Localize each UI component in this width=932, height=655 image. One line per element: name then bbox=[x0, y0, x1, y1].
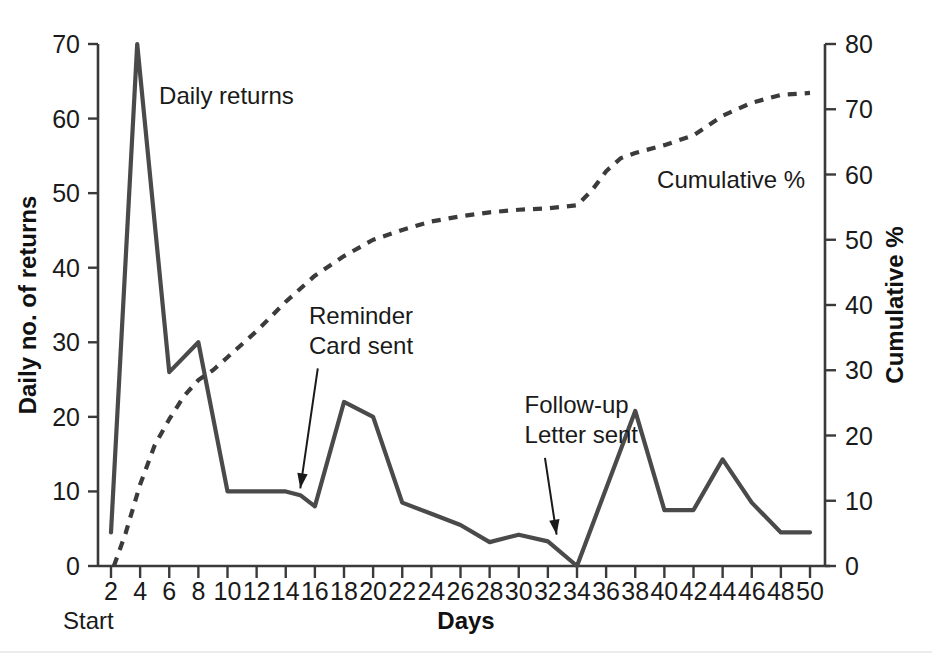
x-tick-label-12: 12 bbox=[243, 577, 271, 605]
left-tick-label-60: 60 bbox=[52, 105, 80, 133]
chart-background bbox=[0, 0, 932, 655]
left-axis-title: Daily no. of returns bbox=[14, 196, 41, 415]
x-tick-label-36: 36 bbox=[592, 577, 620, 605]
right-tick-label-80: 80 bbox=[845, 30, 873, 58]
start-label: Start bbox=[63, 607, 114, 634]
x-tick-label-22: 22 bbox=[388, 577, 416, 605]
follow-up-annotation-line2: Letter sent bbox=[525, 421, 639, 448]
x-tick-label-32: 32 bbox=[534, 577, 562, 605]
dual-axis-line-chart: 010203040506070 01020304050607080 246810… bbox=[0, 0, 932, 655]
follow-up-annotation-line1: Follow-up bbox=[525, 391, 629, 418]
x-tick-label-18: 18 bbox=[330, 577, 358, 605]
x-tick-label-10: 10 bbox=[214, 577, 242, 605]
reminder-card-annotation-line1: Reminder bbox=[309, 302, 413, 329]
daily-returns-annotation: Daily returns bbox=[159, 82, 294, 109]
x-tick-label-28: 28 bbox=[476, 577, 504, 605]
x-tick-label-6: 6 bbox=[162, 577, 176, 605]
left-tick-label-0: 0 bbox=[66, 552, 80, 580]
x-tick-label-26: 26 bbox=[447, 577, 475, 605]
x-tick-label-14: 14 bbox=[272, 577, 300, 605]
x-tick-label-40: 40 bbox=[650, 577, 678, 605]
left-tick-label-40: 40 bbox=[52, 254, 80, 282]
x-tick-label-46: 46 bbox=[738, 577, 766, 605]
right-tick-label-40: 40 bbox=[845, 291, 873, 319]
x-tick-label-4: 4 bbox=[133, 577, 147, 605]
x-tick-label-2: 2 bbox=[104, 577, 118, 605]
right-tick-label-0: 0 bbox=[845, 552, 859, 580]
x-tick-label-38: 38 bbox=[621, 577, 649, 605]
left-tick-label-70: 70 bbox=[52, 30, 80, 58]
right-tick-label-50: 50 bbox=[845, 226, 873, 254]
left-tick-label-20: 20 bbox=[52, 403, 80, 431]
cumulative-annotation: Cumulative % bbox=[657, 166, 805, 193]
left-tick-label-10: 10 bbox=[52, 477, 80, 505]
x-tick-label-24: 24 bbox=[417, 577, 445, 605]
right-tick-label-20: 20 bbox=[845, 422, 873, 450]
left-tick-label-30: 30 bbox=[52, 328, 80, 356]
right-axis-title: Cumulative % bbox=[881, 226, 908, 383]
reminder-card-annotation-line2: Card sent bbox=[309, 332, 413, 359]
x-tick-label-48: 48 bbox=[767, 577, 795, 605]
x-tick-label-42: 42 bbox=[680, 577, 708, 605]
x-tick-label-34: 34 bbox=[563, 577, 591, 605]
right-tick-label-70: 70 bbox=[845, 95, 873, 123]
x-tick-label-16: 16 bbox=[301, 577, 329, 605]
x-tick-label-8: 8 bbox=[191, 577, 205, 605]
chart-figure: 010203040506070 01020304050607080 246810… bbox=[0, 0, 932, 655]
x-tick-label-20: 20 bbox=[359, 577, 387, 605]
left-tick-label-50: 50 bbox=[52, 179, 80, 207]
x-tick-label-30: 30 bbox=[505, 577, 533, 605]
x-tick-label-50: 50 bbox=[796, 577, 824, 605]
right-tick-label-10: 10 bbox=[845, 487, 873, 515]
x-axis-title: Days bbox=[437, 607, 494, 634]
right-tick-label-30: 30 bbox=[845, 356, 873, 384]
right-tick-label-60: 60 bbox=[845, 161, 873, 189]
x-tick-label-44: 44 bbox=[709, 577, 737, 605]
